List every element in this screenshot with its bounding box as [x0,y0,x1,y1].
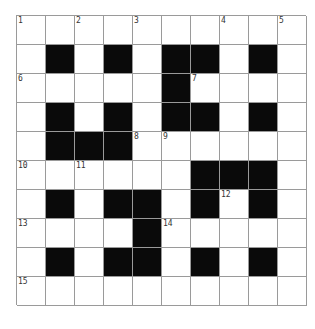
answer-cell[interactable] [17,190,46,219]
answer-cell[interactable] [191,132,220,161]
clue-number: 2 [76,16,81,25]
answer-cell[interactable] [17,132,46,161]
answer-cell[interactable]: 14 [162,219,191,248]
answer-cell[interactable] [220,74,249,103]
block-cell [191,161,220,190]
answer-cell[interactable] [46,16,75,45]
answer-cell[interactable] [75,103,104,132]
answer-cell[interactable] [278,45,307,74]
block-cell [133,248,162,277]
clue-number: 15 [18,277,28,286]
answer-cell[interactable]: 5 [278,16,307,45]
answer-cell[interactable] [278,219,307,248]
answer-cell[interactable] [162,16,191,45]
answer-cell[interactable] [220,103,249,132]
answer-cell[interactable] [17,103,46,132]
clue-number: 13 [18,219,28,228]
answer-cell[interactable]: 4 [220,16,249,45]
answer-cell[interactable] [278,74,307,103]
answer-cell[interactable]: 11 [75,161,104,190]
answer-cell[interactable] [133,277,162,306]
answer-cell[interactable] [162,161,191,190]
answer-cell[interactable] [191,277,220,306]
answer-cell[interactable]: 7 [191,74,220,103]
answer-cell[interactable] [46,161,75,190]
block-cell [220,161,249,190]
clue-number: 3 [134,16,139,25]
answer-cell[interactable]: 9 [162,132,191,161]
answer-cell[interactable] [249,277,278,306]
answer-cell[interactable] [75,74,104,103]
block-cell [46,190,75,219]
answer-cell[interactable] [75,190,104,219]
answer-cell[interactable]: 6 [17,74,46,103]
block-cell [191,103,220,132]
clue-number: 5 [279,16,284,25]
block-cell [249,161,278,190]
answer-cell[interactable] [104,74,133,103]
answer-cell[interactable] [220,219,249,248]
crossword-grid: 123456789101112131415 [16,15,306,305]
block-cell [162,45,191,74]
answer-cell[interactable] [249,74,278,103]
block-cell [162,74,191,103]
answer-cell[interactable] [104,16,133,45]
answer-cell[interactable]: 2 [75,16,104,45]
answer-cell[interactable]: 10 [17,161,46,190]
answer-cell[interactable]: 3 [133,16,162,45]
answer-cell[interactable] [278,248,307,277]
answer-cell[interactable] [17,45,46,74]
answer-cell[interactable] [133,45,162,74]
answer-cell[interactable] [278,103,307,132]
answer-cell[interactable] [191,219,220,248]
answer-cell[interactable] [162,248,191,277]
answer-cell[interactable] [17,248,46,277]
block-cell [46,103,75,132]
answer-cell[interactable]: 8 [133,132,162,161]
answer-cell[interactable] [162,277,191,306]
answer-cell[interactable] [133,161,162,190]
answer-cell[interactable] [133,103,162,132]
block-cell [249,103,278,132]
answer-cell[interactable] [278,132,307,161]
block-cell [104,45,133,74]
answer-cell[interactable] [220,248,249,277]
block-cell [249,45,278,74]
answer-cell[interactable] [220,132,249,161]
block-cell [46,248,75,277]
clue-number: 9 [163,132,168,141]
answer-cell[interactable] [104,219,133,248]
answer-cell[interactable] [220,45,249,74]
block-cell [249,190,278,219]
answer-cell[interactable] [133,74,162,103]
answer-cell[interactable] [191,16,220,45]
answer-cell[interactable] [46,277,75,306]
block-cell [46,132,75,161]
answer-cell[interactable]: 12 [220,190,249,219]
answer-cell[interactable] [278,161,307,190]
clue-number: 7 [192,74,197,83]
block-cell [133,219,162,248]
answer-cell[interactable] [75,45,104,74]
answer-cell[interactable] [104,277,133,306]
answer-cell[interactable] [220,277,249,306]
block-cell [104,103,133,132]
answer-cell[interactable] [278,190,307,219]
block-cell [191,248,220,277]
answer-cell[interactable] [75,277,104,306]
clue-number: 12 [221,190,231,199]
answer-cell[interactable] [249,16,278,45]
answer-cell[interactable] [46,219,75,248]
answer-cell[interactable]: 13 [17,219,46,248]
answer-cell[interactable] [162,190,191,219]
answer-cell[interactable] [75,248,104,277]
clue-number: 4 [221,16,226,25]
answer-cell[interactable] [278,277,307,306]
answer-cell[interactable]: 15 [17,277,46,306]
answer-cell[interactable] [249,132,278,161]
answer-cell[interactable] [46,74,75,103]
answer-cell[interactable] [249,219,278,248]
answer-cell[interactable] [75,219,104,248]
answer-cell[interactable]: 1 [17,16,46,45]
answer-cell[interactable] [104,161,133,190]
